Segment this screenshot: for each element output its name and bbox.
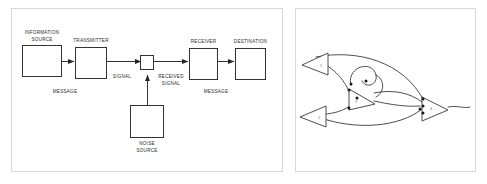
node-dot-5: [422, 98, 425, 101]
node-dot-9: [348, 107, 351, 110]
label-information-source-line1: INFORMATION: [25, 30, 60, 35]
label-receiver: RECEIVER: [191, 39, 217, 44]
cone-4: [422, 97, 448, 121]
label-signal: SIGNAL: [113, 74, 132, 79]
label-information-source-line2: SOURCE: [31, 37, 52, 42]
box-receiver: [190, 49, 218, 80]
label-received-signal-line2: SIGNAL: [162, 81, 181, 86]
node-dot-8: [419, 108, 422, 111]
node-dot-3: [365, 80, 368, 83]
figure-root: INFORMATION SOURCE TRANSMITTER RECEIVER …: [0, 0, 487, 184]
node-dot-7: [422, 112, 425, 115]
node-dot-1: [348, 89, 351, 92]
box-noise-switch: [141, 56, 154, 70]
loop-spiral-lower: [376, 75, 383, 97]
curve-cone2-to-cone4-lower: [318, 109, 422, 125]
cone-2: [300, 106, 326, 127]
tail-stroke-right: [448, 106, 470, 107]
label-message-right: MESSAGE: [204, 89, 228, 94]
node-dot-2: [350, 83, 353, 86]
label-transmitter: TRANSMITTER: [73, 38, 109, 43]
box-noise-source: [131, 106, 164, 138]
label-noise-source-line2: SOURCE: [136, 148, 157, 153]
label-destination: DESTINATION: [234, 39, 267, 44]
panel-abstract-cone-network: 1 2 3 4: [295, 8, 476, 172]
label-received-signal-line1: RECEIVED: [158, 74, 184, 79]
curve-cone3-to-cone4: [374, 101, 420, 106]
label-message-left: MESSAGE: [53, 89, 77, 94]
box-destination: [236, 49, 266, 80]
panel-shannon-weaver-model: INFORMATION SOURCE TRANSMITTER RECEIVER …: [11, 8, 283, 172]
curve-cone3-to-cone4-upper: [374, 91, 422, 102]
label-noise-source-line1: NOISE: [139, 141, 155, 146]
node-dot-4: [356, 97, 359, 100]
box-information-source: [23, 46, 62, 77]
node-dot-6: [422, 105, 425, 108]
cone-1: [302, 53, 328, 75]
shannon-weaver-diagram: INFORMATION SOURCE TRANSMITTER RECEIVER …: [12, 9, 282, 171]
abstract-cone-network-drawing: 1 2 3 4: [296, 9, 475, 171]
loop-spiral-upper: [350, 66, 376, 85]
cone-3: [349, 89, 375, 110]
box-transmitter: [76, 48, 107, 79]
